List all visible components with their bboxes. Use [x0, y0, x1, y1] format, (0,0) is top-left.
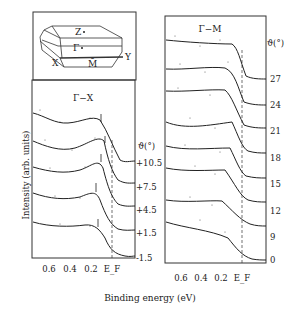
left-xtick-0: 0.6 — [42, 264, 56, 274]
left-angle-label-1: +7.5 — [136, 182, 157, 192]
right-xtick-2: 0.2 — [214, 273, 228, 283]
y-axis-label: Intensity (arb. units) — [21, 131, 31, 220]
inset-label-m: M̄ — [88, 58, 97, 69]
left-xtick-ef: E_F — [104, 264, 120, 275]
inset-label-x: X — [52, 58, 59, 68]
right-xtick-1: 0.4 — [194, 273, 208, 283]
right-angle-label-2: 21 — [270, 126, 281, 136]
right-angle-label-0: 27 — [270, 74, 281, 84]
brillouin-zone-inset: Z Γ X M̄ Y — [33, 12, 136, 80]
right-angle-label-3: 18 — [270, 153, 281, 163]
inset-label-gamma: Γ — [73, 43, 79, 53]
left-angle-label-0: +10.5 — [136, 158, 162, 168]
left-angle-label-4: -1.5 — [136, 253, 152, 263]
right-angle-header: ϑ(°) — [267, 38, 284, 48]
right-panel: Γ−M ϑ(°) 27 24 21 18 15 12 9 0 0.6 — [165, 16, 284, 284]
right-angle-label-4: 15 — [270, 179, 281, 189]
arpes-figure: Z Γ X M̄ Y Γ−X ϑ(°) +10.5 — [0, 0, 299, 315]
right-xtick-ef: E_F — [234, 273, 250, 284]
left-panel: Γ−X ϑ(°) +10.5 +7.5 +4.5 +1.5 -1.5 0.6 0… — [32, 80, 162, 275]
x-axis-label: Binding energy (eV) — [104, 293, 196, 303]
left-angle-header: ϑ(°) — [138, 141, 155, 151]
left-xtick-1: 0.4 — [63, 264, 77, 274]
right-panel-title: Γ−M — [198, 24, 221, 34]
right-angle-label-6: 9 — [270, 232, 275, 242]
right-panel-noise — [175, 36, 229, 233]
inset-label-y: Y — [124, 52, 132, 62]
right-angle-label-1: 24 — [270, 100, 281, 110]
left-panel-title: Γ−X — [73, 93, 94, 103]
right-xtick-0: 0.6 — [174, 273, 188, 283]
left-angle-label-3: +1.5 — [136, 228, 157, 238]
right-angle-label-7: 0 — [270, 255, 275, 265]
left-angle-label-2: +4.5 — [136, 205, 157, 215]
right-angle-label-5: 12 — [270, 206, 281, 216]
left-xtick-2: 0.2 — [84, 264, 98, 274]
left-panel-noise — [40, 110, 96, 227]
inset-label-z: Z — [75, 27, 81, 37]
